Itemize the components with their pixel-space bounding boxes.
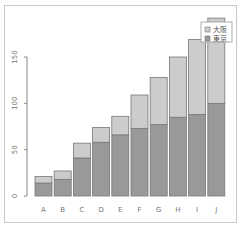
- bar-segment: [169, 57, 186, 117]
- bar-group-C: [73, 143, 90, 196]
- bar-segment: [93, 127, 110, 142]
- x-tick-label: J: [214, 206, 217, 214]
- bar-segment: [131, 128, 148, 196]
- legend-swatch: [205, 27, 210, 32]
- bar-segment: [35, 177, 52, 183]
- legend: 大阪東京: [201, 22, 232, 43]
- bar-segment: [169, 117, 186, 196]
- legend-swatch: [205, 36, 210, 41]
- bar-group-I: [189, 39, 206, 196]
- bar-group-F: [131, 95, 148, 196]
- bar-segment: [93, 142, 110, 196]
- stacked-bar-chart: 050100150ABCDEFGHIJ大阪東京: [0, 0, 241, 227]
- bar-group-G: [150, 77, 167, 196]
- bar-group-A: [35, 177, 52, 196]
- bar-segment: [54, 179, 71, 196]
- bar-segment: [131, 95, 148, 128]
- bar-segment: [112, 135, 129, 196]
- x-tick-label: F: [137, 206, 141, 214]
- bar-group-E: [112, 116, 129, 196]
- x-tick-label: A: [41, 206, 46, 214]
- x-tick-label: G: [156, 206, 161, 214]
- legend-label: 大阪: [213, 25, 227, 34]
- x-tick-label: E: [118, 206, 122, 214]
- y-tick-label: 100: [11, 97, 19, 110]
- x-tick-label: I: [196, 206, 198, 214]
- x-tick-label: C: [79, 206, 84, 214]
- bar-segment: [189, 114, 206, 196]
- bar-segment: [112, 116, 129, 135]
- bar-segment: [73, 143, 90, 158]
- bar-group-B: [54, 171, 71, 196]
- bar-group-D: [93, 127, 110, 196]
- y-tick-label: 150: [11, 50, 19, 63]
- x-tick-label: B: [60, 206, 65, 214]
- bar-segment: [189, 39, 206, 114]
- x-tick-label: H: [175, 206, 180, 214]
- bar-segment: [73, 158, 90, 196]
- y-tick-label: 0: [11, 194, 19, 198]
- x-tick-label: D: [98, 206, 103, 214]
- bar-group-J: [208, 18, 225, 196]
- bar-segment: [150, 77, 167, 124]
- bar-segment: [54, 171, 71, 179]
- legend-label: 東京: [213, 34, 227, 43]
- y-tick-label: 50: [11, 145, 19, 154]
- bar-group-H: [169, 57, 186, 196]
- bar-segment: [150, 125, 167, 196]
- bar-segment: [35, 183, 52, 196]
- bar-segment: [208, 103, 225, 196]
